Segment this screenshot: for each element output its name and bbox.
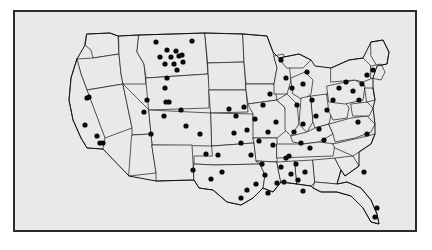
data-point: [300, 121, 305, 126]
data-point: [370, 67, 375, 72]
data-point: [364, 131, 369, 136]
data-point: [300, 81, 305, 86]
data-point: [309, 97, 314, 102]
data-point: [141, 109, 146, 114]
data-point: [183, 123, 188, 128]
map-panel: [13, 10, 417, 232]
data-point: [178, 107, 183, 112]
data-point: [144, 97, 149, 102]
data-point: [304, 69, 309, 74]
state-boundaries: [69, 33, 389, 224]
data-point: [164, 47, 169, 52]
data-point: [270, 142, 275, 147]
data-point: [259, 161, 264, 166]
data-point: [355, 119, 360, 124]
data-point: [273, 119, 278, 124]
data-point: [286, 153, 291, 158]
data-point: [294, 102, 299, 107]
data-point: [374, 205, 379, 210]
data-point: [291, 129, 296, 134]
data-point: [166, 99, 171, 104]
data-point: [288, 171, 293, 176]
data-point: [153, 39, 158, 44]
data-point: [307, 145, 312, 150]
data-point: [364, 72, 369, 77]
data-point: [289, 85, 294, 90]
data-point: [260, 102, 265, 107]
data-point: [316, 126, 321, 131]
data-point: [174, 67, 179, 72]
us-dot-map: [15, 12, 415, 230]
data-point: [252, 116, 257, 121]
data-point: [219, 169, 224, 174]
data-point: [233, 113, 238, 118]
data-point: [283, 75, 288, 80]
data-point: [100, 140, 105, 145]
data-point: [262, 172, 267, 177]
data-point: [86, 94, 91, 99]
data-point: [94, 133, 99, 138]
data-point: [278, 57, 283, 62]
data-point: [265, 190, 270, 195]
data-point: [274, 180, 279, 185]
data-point: [359, 81, 364, 86]
data-point: [164, 75, 169, 80]
data-point: [300, 188, 305, 193]
data-point: [179, 52, 184, 57]
data-point: [162, 61, 167, 66]
data-point: [168, 54, 173, 59]
data-point: [208, 176, 213, 181]
data-point: [298, 140, 303, 145]
data-point: [162, 85, 167, 90]
data-point: [180, 59, 185, 64]
data-point: [171, 61, 176, 66]
data-point: [278, 164, 283, 169]
data-point: [190, 167, 195, 172]
data-point: [231, 130, 236, 135]
data-point: [293, 161, 298, 166]
data-point: [336, 85, 341, 90]
data-point: [324, 107, 329, 112]
data-point: [197, 131, 202, 136]
data-point: [313, 113, 318, 118]
data-point: [215, 152, 220, 157]
data-point: [343, 79, 348, 84]
data-point: [241, 104, 246, 109]
data-point: [356, 97, 361, 102]
data-point: [302, 169, 307, 174]
data-point: [238, 195, 243, 200]
data-point: [244, 127, 249, 132]
data-point: [248, 152, 253, 157]
data-point: [226, 106, 231, 111]
data-point: [281, 179, 286, 184]
data-point: [361, 169, 366, 174]
data-point: [189, 38, 194, 43]
data-point: [82, 122, 87, 127]
data-point: [372, 214, 377, 219]
data-point: [148, 131, 153, 136]
data-point: [256, 138, 261, 143]
data-point: [253, 181, 258, 186]
data-point: [321, 137, 326, 142]
data-point: [330, 97, 335, 102]
figure-container: [0, 0, 432, 250]
data-point: [267, 91, 272, 96]
data-point: [295, 177, 300, 182]
data-point: [203, 151, 208, 156]
data-point: [244, 187, 249, 192]
data-point: [173, 48, 178, 53]
data-point: [157, 54, 162, 59]
data-point: [238, 140, 243, 145]
data-point: [161, 113, 166, 118]
data-point: [265, 129, 270, 134]
data-point: [350, 88, 355, 93]
